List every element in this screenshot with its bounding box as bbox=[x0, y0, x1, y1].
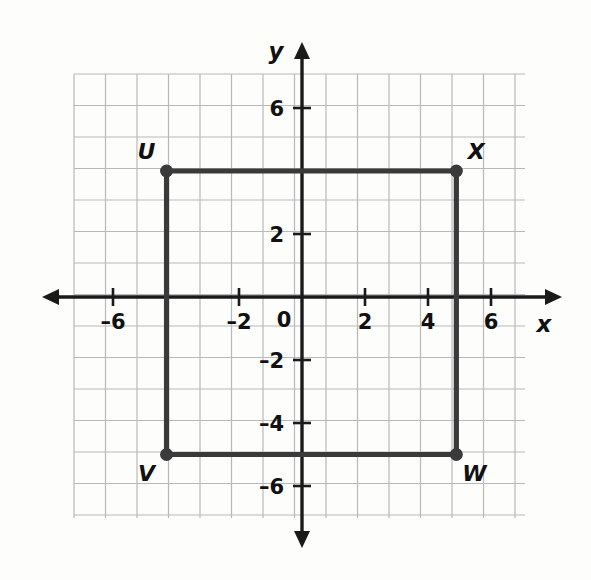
coordinate-plot-svg: –6–224662–2–4–60xyUXWV bbox=[0, 0, 591, 580]
x-tick-label-neg2: –2 bbox=[226, 310, 251, 334]
vertex-label-W: W bbox=[462, 461, 488, 486]
vertex-label-X: X bbox=[466, 139, 486, 164]
coordinate-plane-figure: –6–224662–2–4–60xyUXWV bbox=[0, 0, 591, 580]
y-axis-label: y bbox=[269, 38, 285, 64]
vertex-dot-V bbox=[160, 448, 173, 461]
y-tick-label-neg6: –6 bbox=[259, 475, 284, 499]
vertex-dot-X bbox=[450, 165, 463, 178]
x-tick-label-4: 4 bbox=[421, 310, 436, 334]
x-tick-label-neg6: –6 bbox=[100, 310, 125, 334]
x-tick-label-2: 2 bbox=[358, 310, 373, 334]
x-tick-label-6: 6 bbox=[484, 310, 499, 334]
vertex-points bbox=[160, 165, 463, 462]
vertex-dot-W bbox=[450, 448, 463, 461]
vertex-label-V: V bbox=[138, 461, 157, 486]
origin-label: 0 bbox=[277, 308, 292, 332]
x-axis-label: x bbox=[536, 311, 553, 337]
y-tick-label-neg4: –4 bbox=[259, 412, 284, 436]
rectangle-shape bbox=[167, 171, 457, 455]
y-tick-label-2: 2 bbox=[269, 223, 284, 247]
y-tick-label-neg2: –2 bbox=[259, 349, 284, 373]
vertex-label-U: U bbox=[138, 139, 156, 164]
vertex-dot-U bbox=[160, 165, 173, 178]
y-tick-label-6: 6 bbox=[269, 97, 284, 121]
